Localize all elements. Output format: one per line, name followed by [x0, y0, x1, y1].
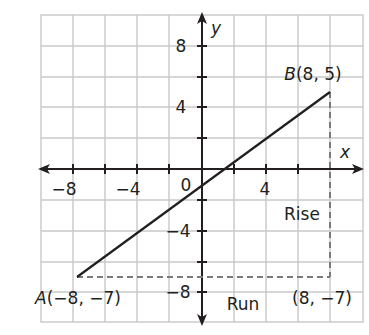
point-b-label: B(8, 5) [284, 64, 341, 84]
origin-label: 0 [181, 175, 192, 195]
y-tick-label-neg8: −8 [165, 282, 190, 302]
point-c-label: (8, −7) [292, 288, 352, 308]
y-tick-label-8: 8 [176, 36, 187, 56]
x-tick-label-neg4: −4 [115, 179, 140, 199]
x-axis-label: x [339, 142, 351, 162]
y-tick-label-neg4: −4 [165, 221, 190, 241]
y-axis-label: y [210, 18, 222, 38]
rise-label: Rise [284, 204, 320, 224]
x-tick-label-4: 4 [260, 179, 271, 199]
x-tick-label-neg8: −8 [51, 179, 76, 199]
y-tick-label-4: 4 [176, 97, 187, 117]
run-label: Run [227, 294, 260, 314]
point-a-label: A(−8, −7) [34, 288, 121, 308]
coordinate-plane: y x 8 4 −4 −8 −8 −4 4 0 B(8, 5) A(−8, −7… [0, 0, 369, 335]
